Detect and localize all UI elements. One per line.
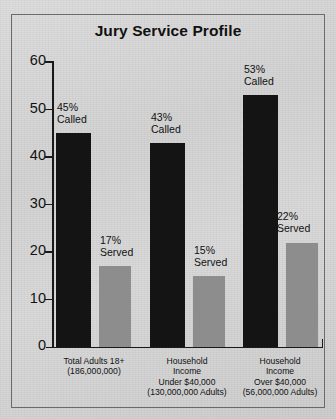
- x-axis-left-cap: [46, 347, 52, 349]
- x-axis-line: [52, 347, 323, 349]
- category-line: Income: [266, 366, 294, 376]
- category-line: Household: [259, 356, 300, 366]
- category-line: Over $40,000: [254, 377, 306, 387]
- bar-label-series: Called: [57, 114, 87, 126]
- bar-label-series: Called: [151, 124, 181, 136]
- bar-served-group2: [193, 276, 225, 347]
- category-line: Total Adults 18+: [64, 356, 125, 366]
- category-line: (186,000,000): [67, 366, 121, 376]
- y-tick-label-60: 60: [6, 53, 46, 68]
- bar-label-served-group1: 17% Served: [100, 235, 133, 258]
- bar-label-value: 53%: [244, 63, 265, 75]
- bar-label-series: Served: [194, 257, 227, 269]
- category-line: Household: [166, 356, 207, 366]
- bar-label-series: Served: [277, 223, 310, 235]
- y-tick-60: [45, 61, 53, 63]
- bar-label-value: 22%: [277, 210, 298, 222]
- y-tick-10: [45, 299, 53, 301]
- y-tick-50: [45, 109, 53, 111]
- y-tick-label-40: 40: [6, 148, 46, 163]
- bar-called-group2: [150, 143, 185, 347]
- bar-called-group1: [56, 133, 91, 347]
- chart-plot-area: 60 50 40 30 20 10 0 45% Called 17% Serve…: [0, 0, 336, 419]
- y-tick-label-30: 30: [6, 196, 46, 211]
- bar-label-value: 43%: [151, 111, 172, 123]
- category-line: (130,000,000 Adults): [147, 387, 226, 397]
- bar-served-group1: [99, 266, 131, 347]
- y-tick-30: [45, 204, 53, 206]
- bar-label-series: Served: [100, 247, 133, 259]
- y-tick-label-20: 20: [6, 243, 46, 258]
- y-tick-20: [45, 251, 53, 253]
- y-tick-40: [45, 156, 53, 158]
- bar-label-value: 15%: [194, 244, 215, 256]
- category-label-group3: Household Income Over $40,000 (56,000,00…: [224, 356, 336, 397]
- category-line: (56,000,000 Adults): [243, 387, 318, 397]
- y-tick-label-0: 0: [6, 338, 46, 353]
- y-tick-label-50: 50: [6, 101, 46, 116]
- bar-called-group3: [243, 95, 278, 347]
- bar-label-served-group2: 15% Served: [194, 245, 227, 268]
- bar-label-served-group3: 22% Served: [277, 211, 310, 234]
- x-axis-right-cap: [322, 339, 324, 348]
- category-line: Income: [173, 366, 201, 376]
- bar-label-value: 45%: [57, 101, 78, 113]
- bar-served-group3: [286, 243, 318, 348]
- bar-label-series: Called: [244, 76, 274, 88]
- y-tick-label-10: 10: [6, 291, 46, 306]
- bar-label-called-group2: 43% Called: [151, 112, 181, 135]
- bar-label-called-group3: 53% Called: [244, 64, 274, 87]
- category-line: Under $40,000: [159, 377, 216, 387]
- bar-label-value: 17%: [100, 234, 121, 246]
- bar-label-called-group1: 45% Called: [57, 102, 87, 125]
